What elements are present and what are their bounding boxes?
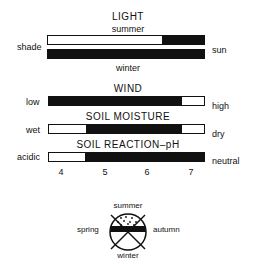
light-summer-bar — [47, 35, 205, 45]
light-summer-label: summer — [112, 24, 145, 34]
light-winter-bar-fill — [48, 50, 204, 58]
soil-reaction-bar-fill — [85, 153, 204, 161]
soil-reaction-acidic-label: acidic — [17, 152, 40, 162]
wind-low-label: low — [26, 97, 40, 107]
soil-moisture-wet-label: wet — [26, 125, 40, 135]
soil-reaction-neutral-label: neutral — [212, 156, 240, 166]
season-circle-icon — [106, 210, 150, 254]
soil-moisture-bar — [48, 124, 205, 134]
ph-tick-7: 7 — [188, 167, 193, 177]
light-title: LIGHT — [112, 12, 144, 22]
season-autumn-label: autumn — [153, 225, 180, 235]
soil-moisture-dry-label: dry — [212, 129, 225, 139]
soil-moisture-bar-fill — [86, 125, 182, 133]
ph-tick-4: 4 — [58, 167, 63, 177]
light-summer-bar-fill — [162, 36, 204, 44]
light-sun-label: sun — [212, 45, 227, 55]
season-spring-label: spring — [77, 225, 99, 235]
wind-high-label: high — [212, 101, 229, 111]
light-winter-label: winter — [116, 63, 140, 73]
soil-reaction-bar — [48, 152, 205, 162]
light-shade-label: shade — [17, 42, 42, 52]
wind-bar — [48, 96, 205, 106]
ph-tick-5: 5 — [102, 167, 107, 177]
light-winter-bar — [47, 49, 205, 59]
soil-reaction-title: SOIL REACTION–pH — [76, 140, 179, 150]
ph-tick-6: 6 — [144, 167, 149, 177]
soil-moisture-title: SOIL MOISTURE — [86, 112, 170, 122]
wind-title: WIND — [114, 84, 143, 94]
wind-bar-fill — [49, 97, 182, 105]
